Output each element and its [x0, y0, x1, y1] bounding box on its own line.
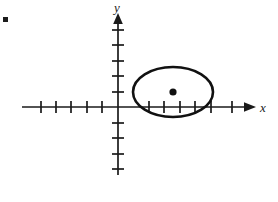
y-axis-group: y: [112, 0, 124, 175]
x-axis-arrowhead: [244, 102, 256, 112]
figure-container: x y: [0, 0, 278, 202]
x-axis-group: x: [22, 100, 266, 115]
scan-artifact-group: [3, 17, 8, 22]
ellipse-group: [133, 67, 213, 117]
y-axis-label: y: [112, 0, 120, 15]
scan-speck-mark: [3, 17, 8, 22]
coordinate-plane-figure: x y: [0, 0, 278, 202]
x-axis-label: x: [259, 100, 266, 115]
ellipse-center-point: [169, 88, 176, 95]
